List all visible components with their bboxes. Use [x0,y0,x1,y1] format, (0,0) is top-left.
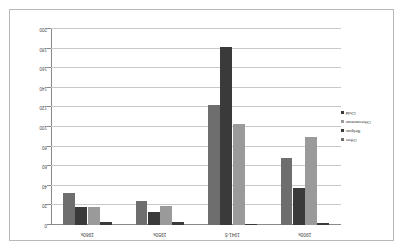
value-axis-tick-label: 40 [25,184,47,189]
legend-item-label: Otherwoman [346,119,371,123]
gridline [51,48,341,49]
axis-tick [47,126,51,127]
gridline [51,165,341,166]
value-axis-tick-label: 160 [25,66,47,71]
value-axis-tick-label: 180 [25,46,47,51]
bar[interactable] [172,222,184,225]
legend-item[interactable]: Otherwoman [341,117,385,126]
axis-tick [47,48,51,49]
axis-tick [47,165,51,166]
axis-tick [47,67,51,68]
legend-color-swatch [341,129,344,132]
axis-tick [47,87,51,88]
axis-tick [47,204,51,205]
axis-tick [47,185,51,186]
bar[interactable] [293,188,305,225]
plot-area[interactable]: 020406080100120140160180200 1900s1941-51… [51,29,341,225]
value-axis [51,29,52,225]
bar[interactable] [75,207,87,225]
category-label: 1900s [269,231,342,236]
gridline [51,67,341,68]
legend-item-label: Child [346,110,356,114]
value-axis-tick-label: 80 [25,144,47,149]
bar[interactable] [245,224,257,225]
chart-legend: OtherBelgianOtherwomanChild [341,108,385,144]
legend-item[interactable]: Belgian [341,126,385,135]
gridline [51,146,341,147]
bar[interactable] [220,47,232,225]
legend-item[interactable]: Other [341,135,385,144]
axis-tick [47,28,51,29]
bar[interactable] [148,212,160,225]
chart-frame: OtherBelgianOtherwomanChild 020406080100… [9,9,394,241]
legend-item[interactable]: Child [341,108,385,117]
value-axis-tick-label: 120 [25,105,47,110]
bar[interactable] [233,124,245,225]
value-axis-tick-label: 100 [25,125,47,130]
axis-tick [47,146,51,147]
legend-color-swatch [341,120,344,123]
category-label: 1941-5 [196,231,269,236]
bar[interactable] [160,206,172,225]
legend-item-label: Belgian [346,128,361,132]
legend-color-swatch [341,138,344,141]
value-axis-tick-label: 200 [25,27,47,32]
value-axis-tick-label: 140 [25,86,47,91]
bar[interactable] [63,193,75,225]
rotated-chart-container: OtherBelgianOtherwomanChild 020406080100… [0,0,403,249]
category-label: 1950s [124,231,197,236]
value-axis-tick-label: 60 [25,164,47,169]
bar[interactable] [305,137,317,225]
legend-item-label: Other [346,137,357,141]
chart-page: OtherBelgianOtherwomanChild 020406080100… [0,0,403,249]
gridline [51,87,341,88]
bar[interactable] [136,201,148,225]
category-label: 1960s [51,231,124,236]
bar[interactable] [317,223,329,225]
value-axis-tick-label: 20 [25,203,47,208]
axis-tick [47,106,51,107]
gridline [51,126,341,127]
axis-tick [47,224,51,225]
gridline [51,28,341,29]
bar[interactable] [88,207,100,225]
bar[interactable] [281,158,293,225]
value-axis-tick-label: 0 [25,223,47,228]
gridline [51,106,341,107]
gridline [51,185,341,186]
legend-color-swatch [341,111,344,114]
bar[interactable] [208,105,220,225]
bar[interactable] [100,222,112,225]
